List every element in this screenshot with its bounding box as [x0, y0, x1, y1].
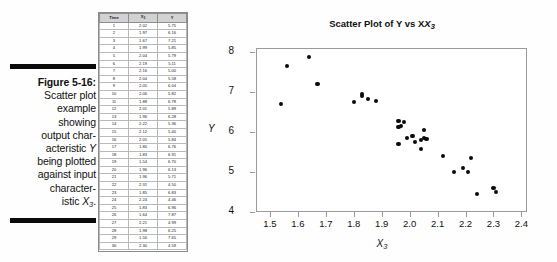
- table-row: 211.965.71: [100, 174, 187, 182]
- table-row: 92.056.04: [100, 83, 187, 91]
- table-row: 162.055.84: [100, 136, 187, 144]
- cell-y: 6.78: [158, 98, 187, 106]
- cell-time: 19: [100, 159, 129, 167]
- cell-x3: 1.99: [129, 45, 158, 53]
- cell-time: 30: [100, 242, 129, 250]
- cell-y: 5.58: [158, 75, 187, 83]
- cell-y: 7.87: [158, 212, 187, 220]
- cell-y: 4.59: [158, 242, 187, 250]
- x-axis-tick-mark: [466, 212, 467, 217]
- cell-x3: 2.05: [129, 83, 158, 91]
- y-axis-tick-mark: [250, 52, 255, 53]
- data-point: [461, 166, 465, 170]
- cell-y: 5.75: [158, 22, 187, 30]
- plot-area: [256, 48, 527, 212]
- caption-rule-bottom: [10, 218, 96, 223]
- table-row: 191.546.70: [100, 159, 187, 167]
- cell-x3: 1.83: [129, 151, 158, 159]
- figure-number: Figure 5-16:: [10, 76, 96, 89]
- x-axis-tick-label: 1.6: [283, 218, 313, 229]
- cell-x3: 2.31: [129, 182, 158, 190]
- y-axis-tick-mark: [250, 212, 255, 213]
- cell-y: 5.71: [158, 174, 187, 182]
- cell-x3: 2.21: [129, 220, 158, 228]
- table-row: 12.025.75: [100, 22, 187, 30]
- cell-x3: 1.56: [129, 235, 158, 243]
- cell-time: 17: [100, 144, 129, 152]
- cell-y: 6.16: [158, 30, 187, 38]
- cell-x3: 2.04: [129, 75, 158, 83]
- x-axis-tick-label: 2.1: [423, 218, 453, 229]
- table-row: 21.976.16: [100, 30, 187, 38]
- x-axis-tick-label: 1.8: [339, 218, 369, 229]
- table-row: 41.995.85: [100, 45, 187, 53]
- x-axis-tick-mark: [410, 212, 411, 217]
- table-row: 102.065.82: [100, 90, 187, 98]
- cell-x3: 1.97: [129, 30, 158, 38]
- data-table-container: Time X3 Y 12.025.7521.976.1631.677.2141.…: [98, 12, 188, 252]
- cell-time: 12: [100, 106, 129, 114]
- cell-x3: 2.22: [129, 121, 158, 129]
- scatter-chart: Scatter Plot of Y vs XX3 Y 456781.51.61.…: [212, 6, 552, 258]
- table-row: 242.244.46: [100, 197, 187, 205]
- table-row: 111.886.78: [100, 98, 187, 106]
- table-row: 272.214.99: [100, 220, 187, 228]
- x-axis-label: X3: [212, 238, 552, 251]
- cell-time: 16: [100, 136, 129, 144]
- table-row: 122.015.89: [100, 106, 187, 114]
- caption-line: Scatter plot: [10, 89, 96, 102]
- data-point: [315, 82, 319, 86]
- caption-line: being plotted: [10, 155, 96, 168]
- cell-time: 23: [100, 189, 129, 197]
- cell-x3: 2.12: [129, 128, 158, 136]
- table-header: Time X3 Y: [100, 14, 187, 23]
- cell-time: 13: [100, 113, 129, 121]
- cell-time: 3: [100, 37, 129, 45]
- y-axis-tick-label: 8: [214, 45, 234, 56]
- cell-x3: 2.30: [129, 242, 158, 250]
- cell-y: 5.82: [158, 90, 187, 98]
- table-row: 52.045.79: [100, 52, 187, 60]
- cell-x3: 1.85: [129, 189, 158, 197]
- figure-caption-text: Figure 5-16:Scatter plotexampleshowingou…: [10, 69, 96, 218]
- data-point: [352, 100, 356, 104]
- table-row: 62.195.11: [100, 60, 187, 68]
- cell-x3: 1.98: [129, 227, 158, 235]
- data-point: [396, 119, 400, 123]
- caption-line: output char-: [10, 129, 96, 142]
- cell-time: 15: [100, 128, 129, 136]
- cell-time: 20: [100, 166, 129, 174]
- cell-y: 6.25: [158, 227, 187, 235]
- x-axis-tick-mark: [493, 212, 494, 217]
- x-axis-tick-label: 1.9: [367, 218, 397, 229]
- cell-y: 6.76: [158, 144, 187, 152]
- cell-x3: 1.54: [129, 159, 158, 167]
- cell-x3: 2.05: [129, 136, 158, 144]
- caption-line: istic X3.: [10, 195, 96, 211]
- y-axis-tick-label: 7: [214, 85, 234, 96]
- column-header-y: Y: [158, 14, 187, 23]
- table-body: 12.025.7521.976.1631.677.2141.995.8552.0…: [100, 22, 187, 250]
- y-axis-tick-mark: [250, 92, 255, 93]
- figure-page: Figure 5-16:Scatter plotexampleshowingou…: [0, 0, 557, 262]
- cell-time: 11: [100, 98, 129, 106]
- x-axis-tick-label: 2.4: [506, 218, 536, 229]
- table-row: 291.567.65: [100, 235, 187, 243]
- table-row: 131.966.28: [100, 113, 187, 121]
- cell-time: 22: [100, 182, 129, 190]
- x-axis-tick-mark: [298, 212, 299, 217]
- cell-time: 5: [100, 52, 129, 60]
- table-header-row: Time X3 Y: [100, 14, 187, 23]
- x-axis-tick-mark: [326, 212, 327, 217]
- cell-y: 5.00: [158, 68, 187, 76]
- cell-time: 4: [100, 45, 129, 53]
- cell-y: 6.70: [158, 159, 187, 167]
- cell-y: 6.04: [158, 83, 187, 91]
- table-row: 82.045.58: [100, 75, 187, 83]
- y-axis-tick-mark: [250, 172, 255, 173]
- x-axis-tick-label: 2.3: [478, 218, 508, 229]
- cell-y: 6.91: [158, 151, 187, 159]
- cell-x3: 1.96: [129, 174, 158, 182]
- y-axis-tick-label: 4: [214, 205, 234, 216]
- x-axis-tick-label: 1.5: [255, 218, 285, 229]
